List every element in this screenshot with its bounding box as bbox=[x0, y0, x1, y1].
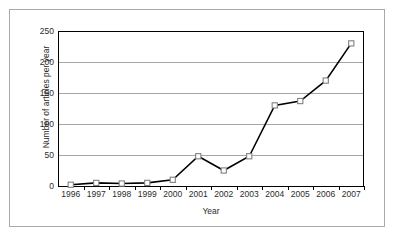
data-series-line bbox=[58, 31, 364, 187]
y-tick-label-150: 150 bbox=[30, 89, 54, 98]
plot-area bbox=[58, 31, 363, 186]
data-point-marker bbox=[272, 103, 277, 108]
chart-figure: Number of articles per year 250 200 150 … bbox=[0, 0, 410, 245]
data-point-marker bbox=[94, 180, 99, 185]
y-tick-label-200: 200 bbox=[30, 58, 54, 67]
y-tick-label-50: 50 bbox=[30, 151, 54, 160]
data-point-marker bbox=[323, 78, 328, 83]
x-axis-title: Year bbox=[58, 206, 364, 216]
x-axis-tick-labels: 1996199719981999200020012002200320042005… bbox=[58, 189, 364, 201]
data-point-marker bbox=[170, 177, 175, 182]
x-tick-label-2007: 2007 bbox=[334, 189, 368, 199]
series-markers bbox=[68, 41, 354, 188]
data-point-marker bbox=[119, 181, 124, 186]
y-tick-label-100: 100 bbox=[30, 120, 54, 129]
data-point-marker bbox=[349, 41, 354, 46]
data-point-marker bbox=[68, 182, 73, 187]
y-tick-label-250: 250 bbox=[30, 27, 54, 36]
data-point-marker bbox=[247, 154, 252, 159]
series-polyline bbox=[71, 43, 352, 184]
data-point-marker bbox=[221, 168, 226, 173]
y-tick-label-0: 0 bbox=[30, 182, 54, 191]
data-point-marker bbox=[145, 180, 150, 185]
y-axis-tick-labels: 250 200 150 100 50 0 bbox=[30, 0, 54, 245]
data-point-marker bbox=[298, 98, 303, 103]
data-point-marker bbox=[196, 154, 201, 159]
